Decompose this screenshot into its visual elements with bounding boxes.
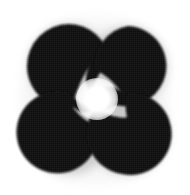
four-disc-illusory-figure: [0, 0, 190, 195]
disc-bottom-right: [87, 93, 172, 175]
illusory-figure-canvas: Four black discs arranged in a two-by-tw…: [0, 0, 190, 195]
